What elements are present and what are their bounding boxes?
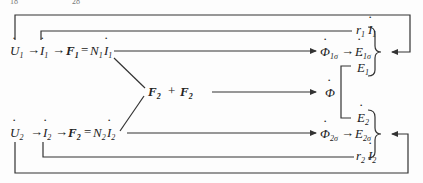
svg-text:I1: I1 [103, 43, 112, 60]
svg-text:=: = [81, 42, 88, 57]
svg-text:N2: N2 [92, 125, 106, 142]
svg-text:F1: F1 [65, 43, 79, 60]
arrow-icon: → [27, 42, 40, 57]
svg-text:·: · [104, 30, 108, 45]
svg-text:·: · [323, 31, 327, 46]
svg-text:Φ2σ: Φ2σ [320, 126, 339, 143]
svg-text:·: · [327, 72, 331, 87]
mmf-2-diagonal [120, 96, 144, 131]
svg-text:I1: I1 [367, 22, 376, 39]
transformer-flow-diagram: 18 28 U1 · → I1 · → F1 = N1 I1 · Φ1σ · →… [0, 0, 423, 183]
resultant-mmf: F2 + F2 [147, 83, 193, 101]
svg-text:Φ: Φ [325, 85, 335, 100]
header-fragment-right: 28 [72, 0, 80, 6]
svg-text:r1: r1 [356, 22, 365, 39]
main-flux-emf-bracket [341, 66, 351, 118]
svg-text:I1: I1 [39, 43, 48, 60]
svg-text:·: · [368, 135, 372, 150]
svg-text:·: · [359, 97, 363, 112]
svg-text:+: + [168, 83, 175, 98]
dot-accent: · [12, 30, 16, 45]
svg-text:I2: I2 [42, 125, 51, 142]
svg-text:=: = [84, 124, 91, 139]
svg-text:·: · [43, 112, 47, 127]
svg-text:·: · [368, 9, 372, 24]
svg-text:·: · [40, 30, 44, 45]
svg-text:N1: N1 [89, 43, 103, 60]
arrow-icon: → [341, 125, 354, 140]
svg-text:I2: I2 [106, 125, 115, 142]
arrow-icon: → [52, 42, 65, 57]
svg-text:·: · [12, 112, 16, 127]
svg-text:·: · [323, 113, 327, 128]
row1-resistance-drop: r1 I1 · [356, 9, 376, 39]
mmf-1-diagonal [114, 58, 145, 88]
header-fragment-left: 18 [10, 0, 18, 6]
arrow-icon: → [341, 43, 354, 58]
svg-text:r2: r2 [356, 148, 365, 165]
inner-loop-top-line [41, 31, 352, 40]
svg-text:U1: U1 [10, 43, 23, 60]
svg-text:·: · [357, 113, 361, 128]
svg-text:Φ1σ: Φ1σ [320, 44, 339, 61]
arrow-icon: → [55, 124, 68, 139]
inner-loop-bottom-line [43, 142, 354, 157]
svg-text:·: · [359, 47, 363, 62]
diagram-svg: 18 28 U1 · → I1 · → F1 = N1 I1 · Φ1σ · →… [0, 0, 423, 183]
svg-text:F2: F2 [147, 84, 161, 101]
svg-text:F2: F2 [67, 125, 81, 142]
row2-chain: U2 · → I2 · → F2 = N2 I2 · [10, 112, 115, 142]
main-flux: Φ · [325, 72, 335, 100]
arrow-icon: → [30, 124, 43, 139]
row1-chain: U1 · → I1 · → F1 = N1 I1 · [10, 30, 112, 60]
svg-text:E1: E1 [356, 60, 369, 77]
svg-text:U2: U2 [10, 125, 23, 142]
svg-text:·: · [107, 112, 111, 127]
svg-text:F2: F2 [179, 84, 193, 101]
